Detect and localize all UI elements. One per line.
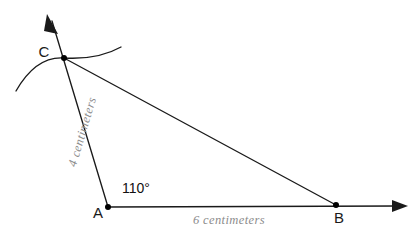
side-label-ab: 6 centimeters	[193, 213, 265, 227]
arrow-head-right-icon	[392, 200, 408, 212]
vertex-dot-b	[333, 202, 339, 208]
vertex-label-b: B	[334, 209, 344, 226]
angle-label-110: 110°	[122, 180, 150, 196]
vertex-dot-a	[105, 204, 111, 210]
vertex-label-a: A	[93, 204, 103, 221]
construction-arc-icon	[16, 47, 121, 91]
vertex-dot-c	[61, 55, 67, 61]
vertex-label-c: C	[39, 43, 50, 60]
arrow-head-up-icon	[44, 14, 58, 34]
side-label-ac: 4 centimeters	[65, 95, 99, 168]
segment-c-to-b-line	[64, 58, 336, 205]
geometry-canvas: C A B 110° 4 centimeters 6 centimeters	[0, 0, 420, 230]
ray-a-to-b-line	[108, 206, 398, 207]
geometry-diagram: C A B 110° 4 centimeters 6 centimeters	[0, 0, 420, 230]
